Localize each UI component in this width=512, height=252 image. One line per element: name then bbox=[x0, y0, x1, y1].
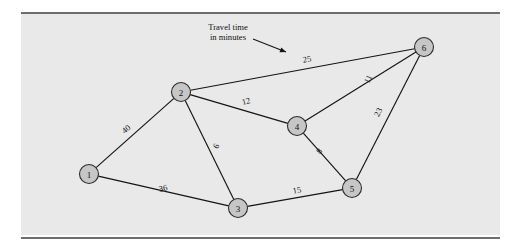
edge-weight-4-6: 11 bbox=[362, 73, 375, 85]
node-label-1: 1 bbox=[87, 170, 92, 180]
node-1: 1 bbox=[80, 165, 99, 184]
node-label-6: 6 bbox=[422, 43, 427, 53]
node-label-5: 5 bbox=[350, 184, 355, 194]
edge-2-3 bbox=[185, 101, 234, 200]
annotation-line-2: in minutes bbox=[210, 32, 247, 42]
edge-weight-5-6: 23 bbox=[372, 106, 385, 118]
network-diagram: 123456 4036612251581123 Travel timein mi… bbox=[0, 0, 512, 252]
annotation-arrowhead-icon bbox=[279, 47, 286, 52]
figure-page: 123456 4036612251581123 Travel timein mi… bbox=[0, 0, 512, 252]
nodes-layer: 123456 bbox=[80, 38, 434, 218]
edge-weight-3-5: 15 bbox=[292, 184, 302, 195]
node-6: 6 bbox=[415, 38, 434, 57]
edge-weight-4-5: 8 bbox=[314, 146, 324, 156]
edge-2-4 bbox=[190, 95, 288, 124]
node-label-2: 2 bbox=[179, 88, 184, 98]
edge-weight-2-4: 12 bbox=[241, 95, 252, 107]
edge-labels-layer: 4036612251581123 bbox=[120, 53, 385, 195]
edge-weight-2-3: 6 bbox=[211, 142, 222, 150]
edge-4-6 bbox=[305, 52, 416, 121]
node-2: 2 bbox=[172, 83, 191, 102]
edge-weight-2-6: 25 bbox=[302, 53, 312, 64]
annotation-line-1: Travel time bbox=[208, 22, 248, 32]
edge-1-2 bbox=[96, 98, 174, 167]
edge-weight-1-3: 36 bbox=[158, 182, 169, 194]
edge-weight-1-2: 40 bbox=[120, 122, 133, 135]
edge-4-5 bbox=[303, 133, 345, 181]
node-label-4: 4 bbox=[295, 122, 300, 132]
node-3: 3 bbox=[229, 199, 248, 218]
node-5: 5 bbox=[343, 179, 362, 198]
node-4: 4 bbox=[288, 117, 307, 136]
annotation-layer: Travel timein minutes bbox=[208, 22, 286, 52]
edges-layer bbox=[96, 49, 420, 207]
node-label-3: 3 bbox=[236, 204, 241, 214]
